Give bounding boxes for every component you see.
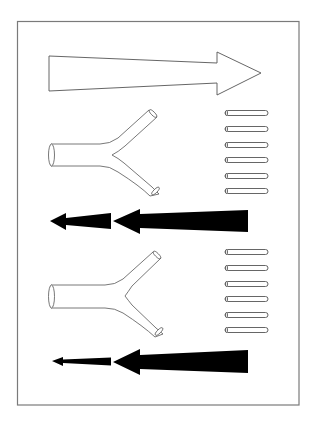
rod-icon: [225, 127, 268, 132]
rod-end-icon: [226, 313, 228, 318]
rod-icon: [225, 111, 268, 116]
rod-icon: [225, 313, 268, 318]
rod-end-icon: [226, 250, 228, 255]
rod-icon: [225, 328, 268, 333]
rod-icon: [225, 174, 268, 179]
rod-end-icon: [226, 111, 228, 116]
tube-inlet-opening-icon: [49, 285, 55, 308]
rod-icon: [225, 266, 268, 271]
rod-end-icon: [226, 127, 228, 132]
rod-icon: [225, 250, 268, 255]
rod-end-icon: [226, 174, 228, 179]
rod-icon: [225, 143, 268, 148]
rod-end-icon: [226, 297, 228, 302]
rod-end-icon: [226, 158, 228, 163]
tube-inlet-opening-icon: [49, 144, 55, 166]
rod-end-icon: [226, 189, 228, 194]
rod-icon: [225, 282, 268, 287]
rod-end-icon: [226, 143, 228, 148]
rod-icon: [225, 297, 268, 302]
rod-end-icon: [226, 328, 228, 333]
diagram-canvas: [0, 0, 316, 421]
rod-end-icon: [226, 282, 228, 287]
rod-end-icon: [226, 266, 228, 271]
rod-icon: [225, 189, 268, 194]
rod-icon: [225, 158, 268, 163]
